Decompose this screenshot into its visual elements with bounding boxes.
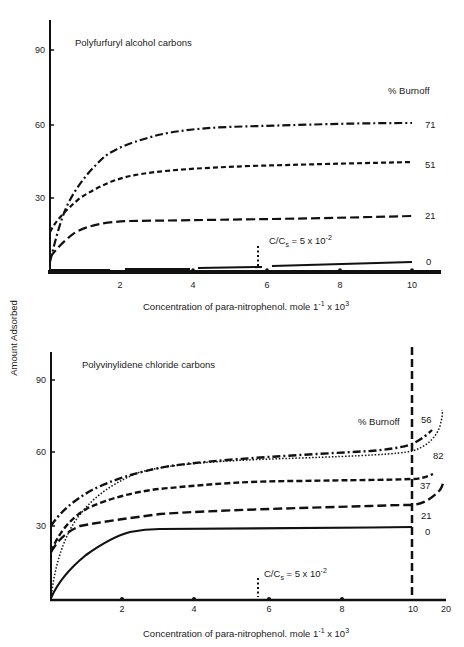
bottom-label-37: 37 [420,480,431,491]
top-label-0: 0 [426,256,431,267]
bottom-ytick-90: 90 [36,375,46,385]
top-xtick-2: 2 [117,280,122,290]
top-series-51 [50,162,412,232]
top-series-21 [50,216,412,257]
top-chart-title: Polyfurfuryl alcohol carbons [75,37,192,48]
top-xtick-4: 4 [190,280,195,290]
bottom-xtick-20: 20 [441,604,451,614]
bottom-xtick-10: 10 [408,604,418,614]
top-x-axis-label: Concentration of para-nitrophenol. mole … [143,300,349,312]
top-ytick-60: 60 [35,120,45,130]
bottom-ytick-30: 30 [36,521,46,531]
top-xtick-10: 10 [407,280,417,290]
bottom-legend-title: % Burnoff [358,416,400,427]
bottom-label-82: 82 [433,450,444,461]
top-xtick-8: 8 [337,280,342,290]
top-label-21: 21 [425,210,436,221]
top-xtick-6: 6 [264,280,269,290]
top-chart: 90 60 30 2 4 6 8 10 Polyfurfuryl alcohol… [35,20,441,312]
top-label-71: 71 [425,119,436,130]
bottom-ccs-annotation: C/Cs = 5 x 10-2 [264,567,327,581]
top-legend-title: % Burnoff [388,85,430,96]
bottom-series-82 [51,410,442,598]
bottom-label-21: 21 [421,510,432,521]
top-ytick-30: 30 [35,193,45,203]
top-series-0 [50,262,412,270]
top-ccs-annotation: C/Cs = 5 x 10-2 [269,234,332,248]
bottom-xtick-4: 4 [191,604,196,614]
bottom-chart-title: Polyvinylidene chloride carbons [82,359,215,370]
top-ytick-90: 90 [35,45,45,55]
bottom-xtick-6: 6 [266,604,271,614]
bottom-series-56 [51,430,432,526]
top-series-71 [50,123,412,262]
bottom-ytick-60: 60 [36,447,46,457]
bottom-series-21 [51,482,443,552]
bottom-xtick-2: 2 [119,604,124,614]
y-axis-label: Amount Adsorbed [8,300,19,376]
top-label-51: 51 [425,159,436,170]
bottom-xtick-8: 8 [339,604,344,614]
bottom-chart: 90 60 30 2 4 6 8 10 20 Polyvinylidene ch… [36,347,451,639]
bottom-label-56: 56 [421,414,432,425]
figure: Amount Adsorbed 90 60 30 2 4 6 8 10 Poly… [0,0,464,647]
bottom-x-axis-label: Concentration of para-nitrophenol. mole … [143,627,349,639]
bottom-series-0 [51,527,412,598]
bottom-label-0: 0 [425,526,430,537]
